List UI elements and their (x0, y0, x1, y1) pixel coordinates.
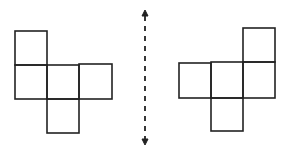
right-cube-net (179, 28, 275, 131)
left-net-square-1 (15, 31, 47, 65)
right-net-square-4 (243, 62, 275, 98)
left-net-square-3 (47, 65, 79, 99)
left-net-square-5 (47, 99, 79, 133)
mirror-diagram (0, 0, 285, 153)
arrowhead-down-icon (142, 139, 148, 145)
right-net-square-1 (243, 28, 275, 62)
left-net-square-2 (15, 65, 47, 99)
arrowhead-up-icon (142, 10, 148, 16)
right-net-square-5 (211, 98, 243, 131)
mirror-axis-arrow (142, 10, 148, 145)
left-net-square-4 (79, 64, 112, 99)
right-net-square-2 (179, 63, 211, 98)
right-net-square-3 (211, 62, 243, 98)
left-cube-net (15, 31, 112, 133)
